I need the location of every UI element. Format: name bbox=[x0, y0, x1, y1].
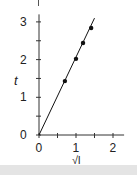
x-tick-label: 2 bbox=[110, 141, 117, 155]
footer-band bbox=[0, 165, 137, 175]
data-series bbox=[39, 18, 95, 135]
y-tick-label: 3 bbox=[20, 15, 27, 29]
y-tick-label: 1 bbox=[20, 90, 27, 104]
ticks bbox=[36, 22, 113, 138]
axes bbox=[39, 14, 124, 135]
chart-plot: 0123012 t √l bbox=[0, 0, 137, 165]
x-tick-label: 0 bbox=[36, 141, 43, 155]
y-tick-label: 0 bbox=[20, 128, 27, 142]
x-tick-label: 1 bbox=[73, 141, 80, 155]
fit-line bbox=[39, 18, 95, 135]
x-axis-label: √l bbox=[72, 154, 80, 165]
y-axis-label: t bbox=[14, 73, 19, 88]
tick-labels: 0123012 bbox=[20, 15, 117, 155]
y-tick-label: 2 bbox=[20, 53, 27, 67]
